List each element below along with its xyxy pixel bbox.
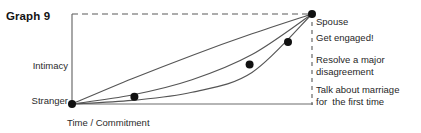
graph-figure: Graph 9 Intimacy Stranger Time / Commitm…	[0, 0, 421, 133]
annotation-resolve-disagreement: Resolve a major disagreement	[316, 54, 385, 77]
annotation-list: Spouse Get engaged! Resolve a major disa…	[316, 0, 421, 133]
data-point	[68, 100, 76, 108]
data-point	[130, 93, 138, 101]
axes-group	[72, 14, 313, 105]
data-point	[308, 10, 316, 18]
annotation-get-engaged: Get engaged!	[316, 32, 374, 44]
curve-upper	[72, 14, 312, 104]
y-axis-tick-intimacy: Intimacy	[33, 60, 68, 71]
x-axis-label: Time / Commitment	[67, 117, 150, 128]
curves-group	[72, 14, 312, 104]
data-point	[246, 60, 254, 68]
annotation-spouse: Spouse	[316, 16, 348, 28]
curve-middle	[72, 14, 312, 104]
figure-title: Graph 9	[6, 10, 50, 22]
data-point	[284, 38, 292, 46]
curve-lower	[72, 14, 312, 104]
annotation-talk-about-marriage: Talk about marriage for the first time	[316, 84, 399, 107]
y-axis-tick-stranger: Stranger	[32, 95, 68, 106]
